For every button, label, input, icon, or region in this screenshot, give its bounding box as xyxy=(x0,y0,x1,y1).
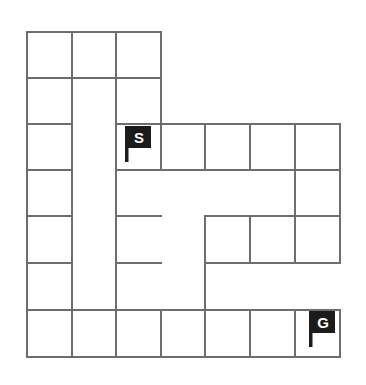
goal-flag-marker: G xyxy=(309,311,335,347)
maze-marker-layer: SG xyxy=(125,126,335,347)
start-flag-marker: S xyxy=(125,126,151,162)
maze-diagram: SG xyxy=(0,0,366,385)
goal-flag-label: G xyxy=(317,314,329,331)
maze-wall-layer xyxy=(27,32,340,357)
start-flag-label: S xyxy=(134,129,144,146)
maze-canvas: SG xyxy=(0,0,366,385)
